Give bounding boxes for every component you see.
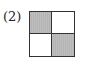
- figure-label: (2): [3, 9, 21, 25]
- shaded-grid: [29, 11, 75, 57]
- grid-cell-bottom-left: [30, 34, 52, 56]
- grid-cell-bottom-right: [52, 34, 74, 56]
- grid-cell-top-right: [52, 12, 74, 34]
- grid-cell-top-left: [30, 12, 52, 34]
